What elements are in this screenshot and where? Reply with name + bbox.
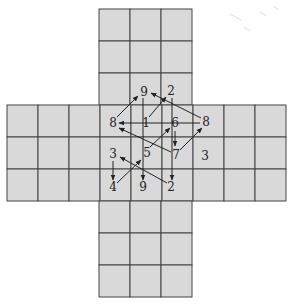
number-label-n3l: 3 — [109, 147, 117, 161]
grid-cell-middle — [38, 169, 69, 201]
grid-cell-middle — [38, 105, 69, 137]
grid-cell-middle — [255, 137, 286, 169]
grid-cell-middle — [38, 137, 69, 169]
grid-cell-top — [161, 41, 192, 73]
grid-cell-middle — [69, 137, 100, 169]
scan-artifacts — [230, 6, 279, 31]
grid-cell-middle — [224, 169, 255, 201]
grid-cell-bottom — [130, 265, 161, 297]
grid-cell-bottom — [130, 233, 161, 265]
grid-cell-middle — [255, 105, 286, 137]
grid-cell-bottom — [99, 233, 130, 265]
grid-cell-middle — [7, 169, 38, 201]
grid-cell-top — [99, 73, 130, 105]
grid-cell-middle — [193, 169, 224, 201]
number-label-n9a: 9 — [140, 85, 148, 99]
grid-cell-middle — [255, 169, 286, 201]
grid-cell-top — [99, 9, 130, 41]
grid-cell-middle — [224, 137, 255, 169]
grid-cell-top — [99, 41, 130, 73]
number-label-n4: 4 — [109, 180, 117, 194]
grid-cell-middle — [224, 105, 255, 137]
grid-cell-bottom — [130, 201, 161, 233]
number-label-n5: 5 — [143, 146, 151, 160]
grid-cell-bottom — [99, 265, 130, 297]
grid-cell-middle — [7, 105, 38, 137]
number-label-n1: 1 — [142, 116, 150, 130]
number-label-n8l: 8 — [109, 116, 117, 130]
number-label-n3r: 3 — [201, 149, 209, 163]
grid-cell-bottom — [161, 233, 192, 265]
number-label-n9b: 9 — [139, 180, 147, 194]
number-label-n2b: 2 — [167, 180, 175, 194]
grid-cell-bottom — [161, 201, 192, 233]
cross-grid-diagram: 9281683573492 — [0, 0, 289, 307]
grid-cell-top — [130, 9, 161, 41]
grid-cell-middle — [69, 169, 100, 201]
number-label-n8r: 8 — [202, 115, 210, 129]
grid-cell-middle — [69, 105, 100, 137]
grid-cell-middle — [7, 137, 38, 169]
grid-cell-top — [130, 41, 161, 73]
grid-cell-top — [161, 9, 192, 41]
grid-cell-bottom — [161, 265, 192, 297]
number-label-n7: 7 — [172, 148, 180, 162]
grid-cell-bottom — [99, 201, 130, 233]
number-label-n2a: 2 — [167, 84, 175, 98]
number-label-n6: 6 — [171, 116, 179, 130]
